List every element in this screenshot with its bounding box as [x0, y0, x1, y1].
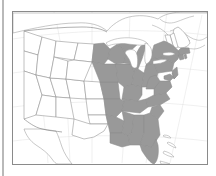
state-oklahoma [88, 115, 108, 124]
state-oregon [24, 51, 38, 75]
map-figure [12, 11, 208, 165]
state-kentucky [122, 85, 142, 101]
figure-page [0, 0, 216, 176]
state-kansas [86, 99, 106, 115]
lake-ontario [163, 52, 175, 55]
us-choropleth-map [12, 11, 208, 165]
left-margin-rule [2, 0, 4, 176]
